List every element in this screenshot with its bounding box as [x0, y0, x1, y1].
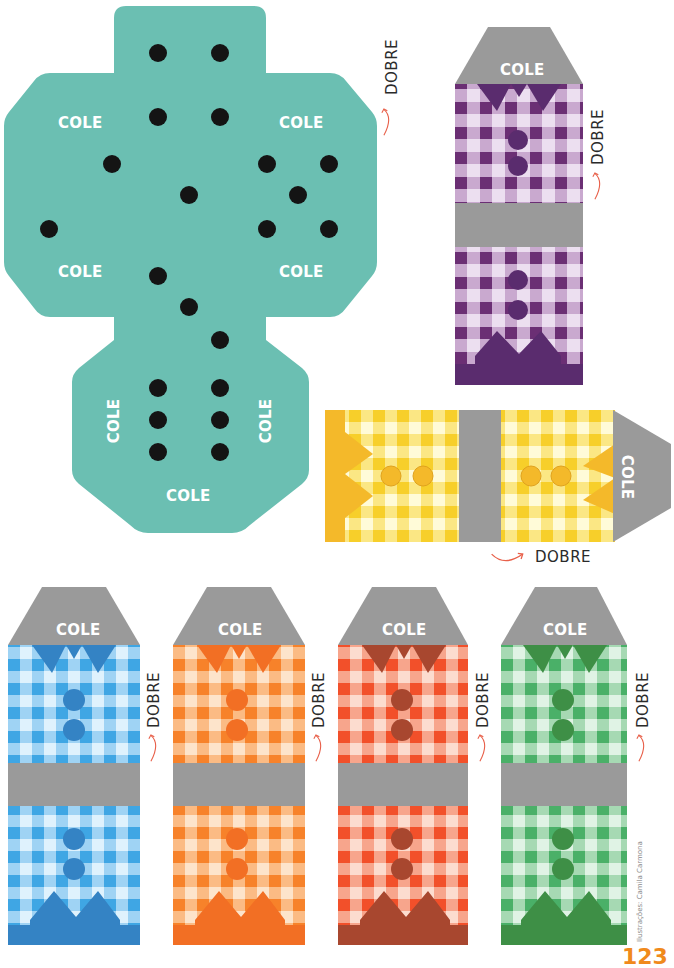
fold-label: DOBRE — [145, 672, 163, 728]
glue-label: COLE — [257, 399, 275, 443]
pip — [211, 331, 229, 349]
pip — [180, 186, 198, 204]
illustration-credit: Ilustrações: Camila Carmona — [636, 841, 644, 942]
fold-label: DOBRE — [535, 548, 591, 566]
shirt-orange: COLE — [173, 587, 305, 947]
pip — [149, 379, 167, 397]
glue-label: COLE — [218, 621, 262, 639]
pip — [40, 220, 58, 238]
fold-label: DOBRE — [589, 109, 607, 165]
pip — [149, 411, 167, 429]
fold-arrow-icon — [633, 734, 653, 764]
shirt-blue: COLE — [8, 587, 140, 947]
glue-label: COLE — [279, 263, 323, 281]
glue-label: COLE — [500, 61, 544, 79]
fold-arrow-icon — [310, 734, 330, 764]
pip — [180, 298, 198, 316]
fold-arrow-icon — [589, 172, 609, 202]
fold-label: DOBRE — [310, 672, 328, 728]
pip — [320, 155, 338, 173]
pip — [289, 186, 307, 204]
glue-label: COLE — [279, 114, 323, 132]
pip — [149, 443, 167, 461]
fold-label: DOBRE — [634, 672, 652, 728]
pip — [211, 108, 229, 126]
pip — [149, 267, 167, 285]
fold-label: DOBRE — [474, 672, 492, 728]
pip — [258, 155, 276, 173]
glue-label: COLE — [56, 621, 100, 639]
shirt-yellow: COLE — [325, 410, 671, 544]
fold-label: DOBRE — [383, 39, 401, 95]
glue-label: COLE — [58, 114, 102, 132]
fold-arrow-icon — [474, 734, 494, 764]
glue-label: COLE — [543, 621, 587, 639]
page-number: 123 — [622, 944, 668, 968]
glue-label: COLE — [166, 487, 210, 505]
pip — [103, 155, 121, 173]
pip — [258, 220, 276, 238]
fold-arrow-icon — [490, 550, 526, 568]
pip — [211, 411, 229, 429]
pip — [211, 379, 229, 397]
glue-label: COLE — [105, 399, 123, 443]
glue-label: COLE — [618, 455, 636, 499]
pip — [211, 44, 229, 62]
shirt-green: COLE — [501, 587, 631, 947]
shirt-purple: COLE — [455, 27, 585, 387]
pip — [211, 443, 229, 461]
fold-arrow-icon — [378, 108, 398, 138]
fold-arrow-icon — [145, 734, 165, 764]
pip — [320, 220, 338, 238]
pip — [149, 108, 167, 126]
shirt-red: COLE — [338, 587, 470, 947]
glue-label: COLE — [382, 621, 426, 639]
glue-label: COLE — [58, 263, 102, 281]
pip — [149, 44, 167, 62]
